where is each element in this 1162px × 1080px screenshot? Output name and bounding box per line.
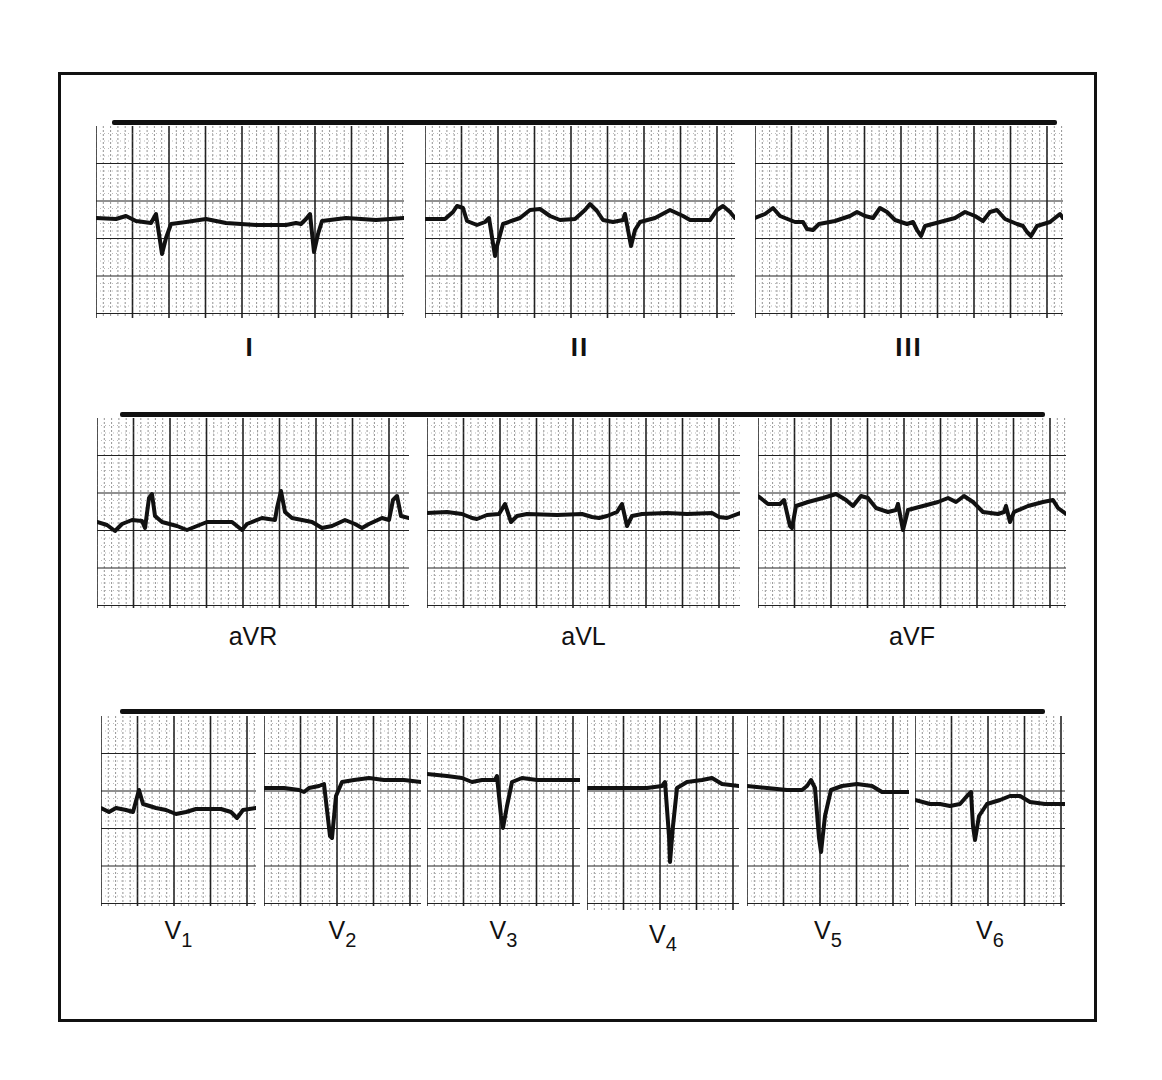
lead-label-iii: III	[755, 332, 1063, 363]
ecg-waveform	[97, 491, 409, 531]
ecg-strip-v6	[915, 716, 1065, 906]
ecg-grid	[915, 716, 1065, 906]
ecg-waveform	[425, 204, 735, 256]
ecg-waveform	[758, 494, 1066, 530]
lead-label-v1: V1	[101, 916, 256, 952]
ecg-waveform	[96, 214, 404, 254]
ecg-grid	[747, 716, 909, 906]
ecg-strip-i	[96, 126, 404, 318]
lead-label-avr: aVR	[97, 622, 409, 651]
lead-label-v2: V2	[264, 916, 421, 952]
lead-label-v4: V4	[587, 920, 739, 956]
ecg-waveform	[915, 792, 1065, 840]
ecg-strip-v5	[747, 716, 909, 906]
lead-label-avf: aVF	[758, 622, 1066, 651]
lead-label-v3: V3	[427, 916, 580, 952]
ecg-strip-v4	[587, 716, 739, 910]
calibration-bar	[112, 120, 1057, 125]
lead-label-avl: aVL	[427, 622, 740, 651]
ecg-grid	[425, 126, 735, 318]
ecg-grid	[96, 126, 404, 318]
ecg-strip-iii	[755, 126, 1063, 318]
lead-label-i: I	[96, 332, 404, 363]
ecg-strip-avl	[427, 418, 740, 608]
ecg-grid	[97, 418, 409, 608]
ecg-grid	[264, 716, 421, 906]
ecg-strip-avr	[97, 418, 409, 608]
lead-label-ii: II	[425, 332, 735, 363]
ecg-grid	[758, 418, 1066, 608]
ecg-strip-v3	[427, 716, 580, 906]
ecg-strip-avf	[758, 418, 1066, 608]
ecg-grid	[587, 716, 739, 910]
ecg-waveform	[755, 208, 1063, 236]
ecg-strip-v2	[264, 716, 421, 906]
ecg-grid	[427, 418, 740, 608]
ecg-grid	[427, 716, 580, 906]
lead-label-v6: V6	[915, 916, 1065, 952]
ecg-grid	[101, 716, 256, 906]
ecg-strip-v1	[101, 716, 256, 906]
ecg-waveform	[427, 774, 580, 828]
ecg-grid	[755, 126, 1063, 318]
ecg-strip-ii	[425, 126, 735, 318]
lead-label-v5: V5	[747, 916, 909, 952]
calibration-bar	[120, 412, 1045, 417]
ecg-waveform	[427, 504, 740, 526]
calibration-bar	[120, 709, 1045, 714]
